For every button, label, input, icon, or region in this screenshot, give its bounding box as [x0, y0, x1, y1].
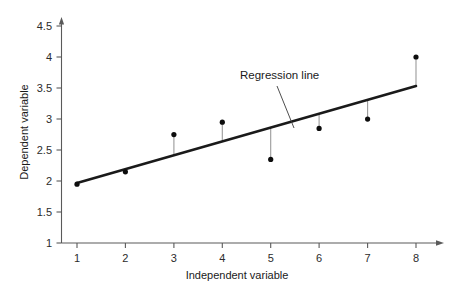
y-tick-label: 4.5: [37, 20, 52, 32]
data-point: [268, 157, 273, 162]
x-tick-label: 7: [365, 252, 371, 264]
annotation-leader-line: [277, 86, 294, 128]
x-axis: [62, 240, 445, 245]
data-point: [171, 132, 176, 137]
plot-canvas: 1 1.5 2 2.5 3 3.5 4 4.5 1 2 3 4 5: [0, 0, 462, 284]
x-tick-label: 6: [316, 252, 322, 264]
y-tick-group: [57, 26, 62, 243]
x-tick-labels: 1 2 3 4 5 6 7 8: [74, 252, 419, 264]
x-tick-label: 8: [413, 252, 419, 264]
y-tick-label: 1: [46, 237, 52, 249]
annotation-label: Regression line: [240, 69, 319, 81]
regression-line-annotation: Regression line: [240, 69, 319, 128]
data-point: [413, 54, 418, 59]
data-point: [74, 182, 79, 187]
x-axis-arrowhead-icon: [436, 240, 444, 245]
regression-scatter-chart: 1 1.5 2 2.5 3 3.5 4 4.5 1 2 3 4 5: [0, 0, 462, 284]
data-point: [317, 126, 322, 131]
data-point: [123, 169, 128, 174]
y-tick-label: 4: [46, 51, 52, 63]
x-tick-label: 2: [122, 252, 128, 264]
x-axis-title: Independent variable: [186, 269, 289, 281]
y-axis: [59, 17, 64, 243]
x-tick-label: 3: [171, 252, 177, 264]
y-axis-arrowhead-icon: [59, 17, 64, 25]
x-tick-label: 4: [219, 252, 225, 264]
x-tick-group: [77, 243, 416, 248]
x-tick-label: 1: [74, 252, 80, 264]
y-tick-label: 3: [46, 113, 52, 125]
x-tick-label: 5: [268, 252, 274, 264]
regression-line: [77, 86, 416, 183]
data-point: [220, 120, 225, 125]
y-tick-label: 2.5: [37, 144, 52, 156]
y-axis-title: Dependent variable: [18, 84, 30, 179]
y-tick-labels: 1 1.5 2 2.5 3 3.5 4 4.5: [37, 20, 52, 249]
data-point: [365, 117, 370, 122]
y-tick-label: 1.5: [37, 206, 52, 218]
y-tick-label: 2: [46, 175, 52, 187]
y-tick-label: 3.5: [37, 82, 52, 94]
